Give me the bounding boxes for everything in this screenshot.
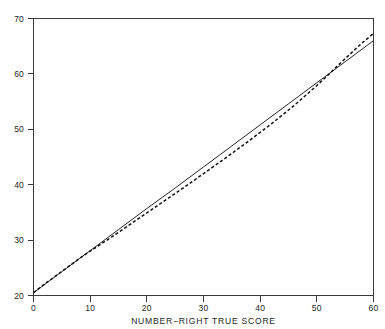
x-tick-label-20: 20 xyxy=(142,303,152,313)
chart-figure: 20 30 40 50 60 70 0 10 20 30 40 50 60 xyxy=(0,0,385,329)
chart-svg: 20 30 40 50 60 70 0 10 20 30 40 50 60 xyxy=(0,0,385,329)
x-tick-label-10: 10 xyxy=(85,303,95,313)
chart-background xyxy=(0,0,385,329)
x-tick-label-60: 60 xyxy=(369,303,379,313)
x-tick-label-30: 30 xyxy=(199,303,209,313)
y-tick-label-60: 60 xyxy=(14,69,24,79)
y-tick-label-70: 70 xyxy=(14,14,24,24)
y-tick-label-20: 20 xyxy=(14,291,24,301)
y-tick-label-50: 50 xyxy=(14,124,24,134)
x-tick-label-40: 40 xyxy=(255,303,265,313)
x-tick-label-50: 50 xyxy=(312,303,322,313)
y-tick-label-30: 30 xyxy=(14,235,24,245)
x-tick-label-0: 0 xyxy=(31,303,36,313)
x-axis-title: NUMBER−RIGHT TRUE SCORE xyxy=(131,316,276,326)
y-tick-label-40: 40 xyxy=(14,180,24,190)
